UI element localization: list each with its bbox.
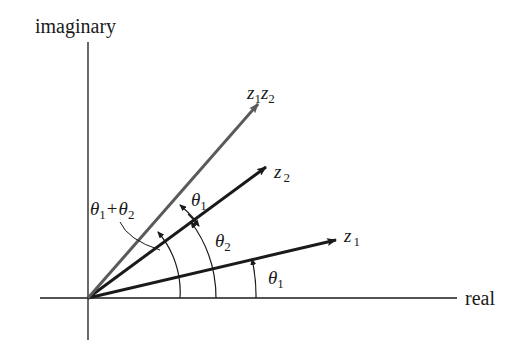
z1z2-label: z1z2: [246, 82, 275, 106]
imaginary-axis-label: imaginary: [35, 15, 116, 38]
arc-theta2: [191, 222, 216, 298]
complex-multiplication-diagram: imaginary real z1 z2 z1z2 θ1 θ2 θ1 θ1+θ2: [0, 0, 523, 348]
sum-leader-line: [120, 222, 160, 250]
theta2-label: θ2: [215, 230, 231, 254]
z1-label: z1: [343, 225, 360, 249]
real-axis-label: real: [465, 287, 495, 309]
arc-theta-sum: [158, 232, 180, 298]
z2-label: z2: [273, 161, 290, 185]
theta1-z1-label: θ1: [268, 267, 284, 291]
theta1-between-label: θ1: [191, 189, 207, 213]
arc-theta1-z1: [252, 259, 256, 298]
theta-sum-label: θ1+θ2: [90, 198, 134, 222]
